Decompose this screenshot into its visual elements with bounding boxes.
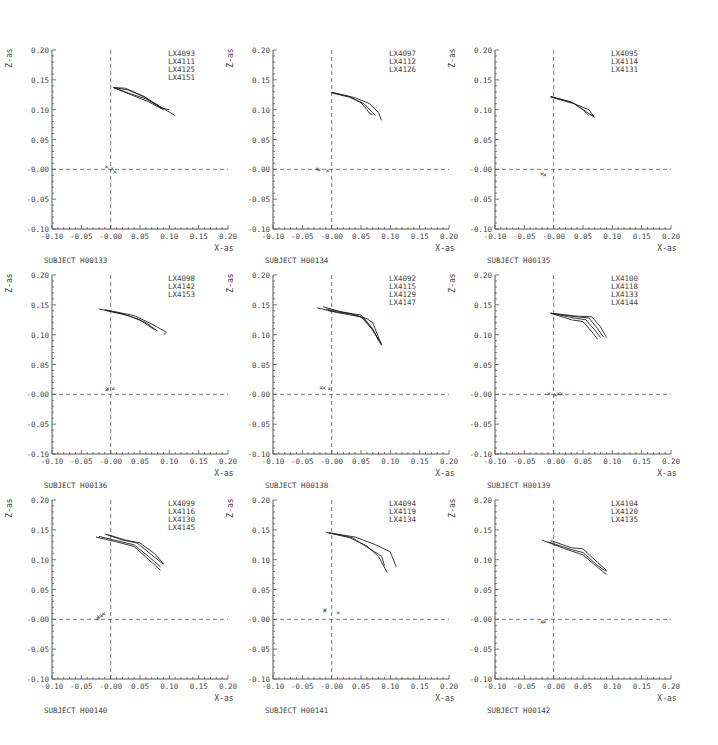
y-tick-label: -0.10 [247, 450, 270, 459]
y-tick-label: -0.00 [469, 615, 492, 624]
subplot-title: SUBJECT H00135 [487, 256, 550, 265]
y-tick-label: 0.10 [31, 331, 50, 340]
y-tick-label: 0.10 [31, 106, 50, 115]
subplot-title: SUBJECT H00140 [44, 706, 108, 715]
x-tick-label: -0.00 [542, 232, 565, 241]
y-tick-label: 0.20 [252, 496, 271, 505]
x-tick-label: -0.00 [542, 682, 565, 691]
subplot-title: SUBJECT H00134 [265, 256, 329, 265]
x-tick-label: -0.00 [99, 682, 122, 691]
y-tick-label: 0.20 [31, 46, 50, 55]
y-tick-label: 0.05 [474, 361, 492, 370]
y-tick-label: -0.05 [469, 645, 492, 654]
y-tick-label: 0.20 [474, 271, 493, 280]
x-tick-label: 0.20 [219, 232, 238, 241]
x-tick-label: 0.15 [633, 457, 651, 466]
y-tick-label: -0.10 [26, 675, 49, 684]
legend-entry: LX4126 [389, 65, 417, 74]
legend-entry: LX4135 [611, 515, 638, 524]
x-tick-label: 0.05 [352, 457, 370, 466]
y-tick-label: 0.10 [31, 556, 50, 565]
y-tick-label: 0.20 [31, 271, 50, 280]
x-tick-label: 0.10 [603, 682, 622, 691]
x-axis-label: X-as [657, 469, 676, 478]
subplot-panel: -0.10-0.05-0.000.050.100.150.200.200.150… [5, 496, 238, 715]
x-tick-label: -0.05 [513, 232, 536, 241]
trajectory-line [329, 533, 397, 567]
y-tick-label: -0.05 [469, 420, 492, 429]
x-tick-label: 0.20 [662, 457, 681, 466]
y-axis-label: Z-as [448, 498, 457, 517]
x-marker-icon: × [559, 390, 563, 398]
y-tick-label: -0.10 [469, 225, 492, 234]
y-tick-label: 0.15 [474, 526, 492, 535]
y-axis-label: Z-as [226, 48, 235, 67]
y-tick-label: 0.05 [474, 136, 492, 145]
subplot-title: SUBJECT H00139 [487, 481, 550, 490]
x-tick-label: 0.05 [574, 682, 592, 691]
x-tick-label: 0.15 [411, 682, 429, 691]
subplot-panel: -0.10-0.05-0.000.050.100.150.200.200.150… [226, 496, 459, 715]
y-tick-label: -0.00 [26, 390, 49, 399]
x-tick-label: 0.05 [131, 232, 149, 241]
y-tick-label: 0.15 [31, 301, 49, 310]
y-tick-label: -0.00 [247, 615, 270, 624]
y-tick-label: -0.00 [469, 165, 492, 174]
x-tick-label: -0.00 [320, 457, 343, 466]
x-marker-icon: × [325, 167, 329, 175]
subplot-title: SUBJECT H00141 [265, 706, 328, 715]
y-tick-label: -0.05 [26, 645, 49, 654]
x-tick-label: 0.10 [381, 232, 400, 241]
y-axis-label: Z-as [5, 48, 14, 67]
x-marker-icon: × [113, 168, 117, 176]
subplot-panel: -0.10-0.05-0.000.050.100.150.200.200.150… [226, 271, 459, 490]
x-tick-label: 0.15 [190, 232, 208, 241]
legend-entry: LX4153 [168, 290, 195, 299]
x-axis-label: X-as [435, 244, 454, 253]
x-tick-label: 0.20 [219, 682, 238, 691]
y-tick-label: 0.20 [474, 496, 493, 505]
y-tick-label: 0.15 [31, 76, 49, 85]
figure-canvas: -0.10-0.05-0.000.050.100.150.200.200.150… [0, 0, 718, 745]
y-tick-label: -0.05 [247, 195, 270, 204]
x-marker-icon: × [317, 166, 321, 174]
y-tick-label: 0.15 [474, 301, 492, 310]
subplot-panel: -0.10-0.05-0.000.050.100.150.200.200.150… [5, 46, 238, 265]
y-tick-label: -0.00 [247, 165, 270, 174]
x-axis-label: X-as [657, 244, 676, 253]
x-tick-label: 0.05 [352, 232, 370, 241]
x-tick-label: -0.05 [513, 682, 536, 691]
x-marker-icon: × [102, 610, 106, 618]
x-marker-icon: × [547, 390, 551, 398]
y-tick-label: 0.15 [474, 76, 492, 85]
x-tick-label: 0.15 [411, 457, 429, 466]
x-axis-label: X-as [435, 694, 454, 703]
x-tick-label: 0.15 [190, 682, 208, 691]
x-axis-label: X-as [214, 244, 233, 253]
y-tick-label: 0.15 [31, 526, 49, 535]
y-tick-label: 0.05 [31, 361, 49, 370]
y-tick-label: 0.05 [252, 586, 270, 595]
y-tick-label: -0.00 [247, 390, 270, 399]
y-tick-label: -0.05 [26, 195, 49, 204]
x-tick-label: 0.10 [160, 682, 179, 691]
y-axis-label: Z-as [226, 498, 235, 517]
x-tick-label: 0.20 [440, 682, 459, 691]
legend-entry: LX4151 [168, 73, 195, 82]
trajectory-line [108, 535, 164, 564]
x-tick-label: -0.05 [291, 682, 314, 691]
x-marker-icon: × [336, 609, 340, 617]
y-tick-label: 0.15 [252, 526, 270, 535]
legend-entry: LX4144 [611, 298, 639, 307]
y-tick-label: 0.20 [31, 496, 50, 505]
x-tick-label: 0.05 [574, 232, 592, 241]
subplot-panel: -0.10-0.05-0.000.050.100.150.200.200.150… [448, 46, 681, 265]
x-axis-label: X-as [435, 469, 454, 478]
y-tick-label: -0.05 [247, 420, 270, 429]
x-tick-label: -0.05 [70, 232, 93, 241]
y-tick-label: -0.10 [247, 675, 270, 684]
y-axis-label: Z-as [448, 273, 457, 292]
legend-entry: LX4134 [389, 515, 417, 524]
x-tick-label: 0.05 [131, 457, 149, 466]
x-tick-label: -0.00 [542, 457, 565, 466]
